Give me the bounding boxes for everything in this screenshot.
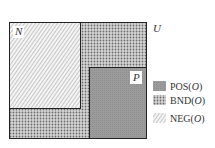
legend: POS(O) BND(O) NEG(O) [153, 81, 205, 125]
positive-label: P [132, 71, 140, 83]
universe-label: U [153, 22, 162, 34]
legend-label-neg: NEG(O) [170, 113, 204, 125]
legend-swatch-pos [153, 81, 166, 91]
rough-set-region-diagram: N P U POS(O) BND(O) NEG(O) [0, 0, 215, 148]
legend-swatch-bnd [153, 95, 166, 105]
negative-label: N [14, 25, 23, 37]
legend-swatch-neg [153, 113, 166, 123]
legend-label-pos: POS(O) [170, 81, 202, 93]
legend-label-bnd: BND(O) [170, 95, 205, 107]
